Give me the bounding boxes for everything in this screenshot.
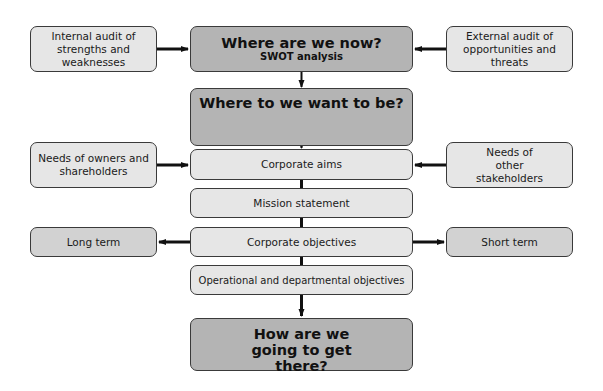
- where-now-label: Where are we now?: [221, 35, 381, 51]
- internal-audit-box: Internal audit of strengths and weakness…: [30, 26, 157, 72]
- operational-objectives-box: Operational and departmental objectives: [190, 265, 413, 295]
- internal-audit-label: Internal audit of strengths and weakness…: [31, 30, 156, 69]
- operational-objectives-label: Operational and departmental objectives: [199, 274, 405, 287]
- mission-statement-label: Mission statement: [253, 197, 349, 210]
- corporate-objectives-label: Corporate objectives: [247, 236, 356, 249]
- corporate-objectives-box: Corporate objectives: [190, 227, 413, 257]
- other-stakeholders-box: Needs of other stakeholders: [446, 142, 573, 188]
- owners-needs-label: Needs of owners and shareholders: [31, 152, 156, 178]
- where-now-box: Where are we now? SWOT analysis: [190, 26, 413, 72]
- external-audit-box: External audit of opportunities and thre…: [446, 26, 573, 72]
- long-term-label: Long term: [67, 236, 121, 249]
- short-term-label: Short term: [481, 236, 537, 249]
- where-want-box: Where to we want to be?: [190, 88, 413, 146]
- how-get-there-label: How are we going to get there?: [191, 326, 412, 374]
- short-term-box: Short term: [446, 227, 573, 257]
- corporate-aims-label: Corporate aims: [261, 158, 342, 171]
- owners-needs-box: Needs of owners and shareholders: [30, 142, 157, 188]
- other-stakeholders-label: Needs of other stakeholders: [447, 146, 572, 185]
- how-get-there-box: How are we going to get there?: [190, 318, 413, 371]
- external-audit-label: External audit of opportunities and thre…: [447, 30, 572, 69]
- long-term-box: Long term: [30, 227, 157, 257]
- mission-statement-box: Mission statement: [190, 188, 413, 218]
- swot-analysis-label: SWOT analysis: [260, 51, 343, 63]
- where-want-label: Where to we want to be?: [199, 95, 403, 111]
- corporate-aims-box: Corporate aims: [190, 149, 413, 180]
